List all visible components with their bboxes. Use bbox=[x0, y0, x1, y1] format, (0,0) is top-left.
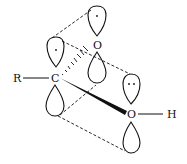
single-electron-dot bbox=[96, 15, 98, 17]
hydrogen-label: H bbox=[167, 108, 177, 121]
lone-pair-dot bbox=[128, 83, 130, 85]
hydroxyl-oxygen-upper-lobe bbox=[123, 74, 140, 104]
oxygen-lower-orbital-lobe bbox=[88, 52, 106, 83]
carbon-upper-orbital-lobe bbox=[47, 37, 64, 67]
overlap-line-c-top-o bbox=[52, 10, 91, 38]
overlap-line-c-bottom-o bbox=[58, 116, 125, 151]
overlap-line-c-middle-lobe bbox=[60, 85, 96, 115]
carbon-label: C bbox=[51, 72, 59, 85]
top-oxygen-label: O bbox=[93, 39, 102, 52]
lone-pair-dot bbox=[133, 83, 135, 85]
hydroxyl-oxygen-lower-lobe bbox=[123, 122, 140, 153]
r-group-label: R bbox=[13, 72, 22, 85]
hydroxyl-oxygen-label: O bbox=[127, 108, 136, 121]
carbon-lower-orbital-lobe bbox=[46, 85, 64, 116]
hashed-wedge-bond bbox=[62, 46, 88, 75]
single-electron-dot bbox=[55, 49, 57, 51]
orbital-diagram: R C O O H bbox=[0, 0, 187, 164]
bold-wedge-bond bbox=[60, 78, 127, 115]
